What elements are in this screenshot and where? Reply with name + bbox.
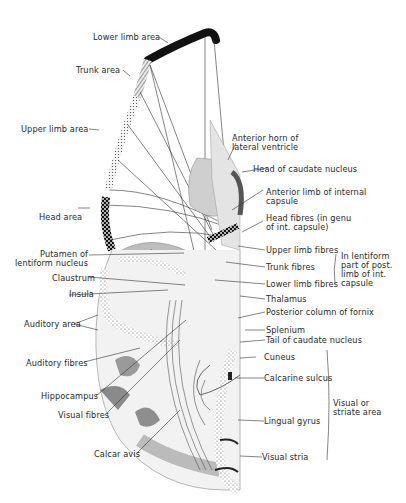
- label-posterior-fornix: Posterior column of fornix: [266, 308, 374, 317]
- label-lower-limb-fibres: Lower limb fibres: [266, 280, 338, 289]
- label-visual-fibres: Visual fibres: [58, 411, 109, 420]
- label-visual-area-group: Visual or striate area: [333, 399, 381, 417]
- label-upper-limb-area: Upper limb area: [21, 125, 88, 134]
- label-putamen: Putamen of lentiform nucleus: [15, 250, 88, 268]
- label-thalamus: Thalamus: [266, 295, 307, 304]
- label-trunk-area: Trunk area: [76, 66, 120, 75]
- label-auditory-fibres: Auditory fibres: [26, 359, 88, 368]
- label-anterior-limb: Anterior limb of internal capsule: [266, 188, 366, 206]
- label-head-area: Head area: [39, 213, 82, 222]
- cortical-strip: [105, 32, 216, 250]
- label-hippocampus: Hippocampus: [41, 392, 98, 401]
- label-auditory-area: Auditory area: [24, 320, 81, 329]
- label-head-fibres: Head fibres (in genu of int. capsule): [266, 214, 351, 232]
- label-anterior-horn: Anterior horn of lateral ventricle: [232, 134, 298, 152]
- label-lingual-gyrus: Lingual gyrus: [264, 417, 320, 426]
- label-lentiform-group: In lentiform part of post. limb of int. …: [341, 252, 392, 288]
- label-upper-limb-fibres: Upper limb fibres: [266, 246, 338, 255]
- label-trunk-fibres: Trunk fibres: [266, 263, 315, 272]
- label-calcar-avis: Calcar avis: [94, 450, 140, 459]
- label-lower-limb-area: Lower limb area: [93, 33, 160, 42]
- label-claustrum: Claustrum: [52, 274, 95, 283]
- label-calcarine-sulcus: Calcarine sulcus: [264, 374, 332, 383]
- label-head-caudate: Head of caudate nucleus: [253, 165, 357, 174]
- label-splenium: Splenium: [266, 326, 305, 335]
- label-tail-caudate: Tail of caudate nucleus: [266, 336, 362, 345]
- label-cuneus: Cuneus: [264, 353, 295, 362]
- label-visual-stria: Visual stria: [262, 453, 308, 462]
- label-insula: Insula: [69, 290, 94, 299]
